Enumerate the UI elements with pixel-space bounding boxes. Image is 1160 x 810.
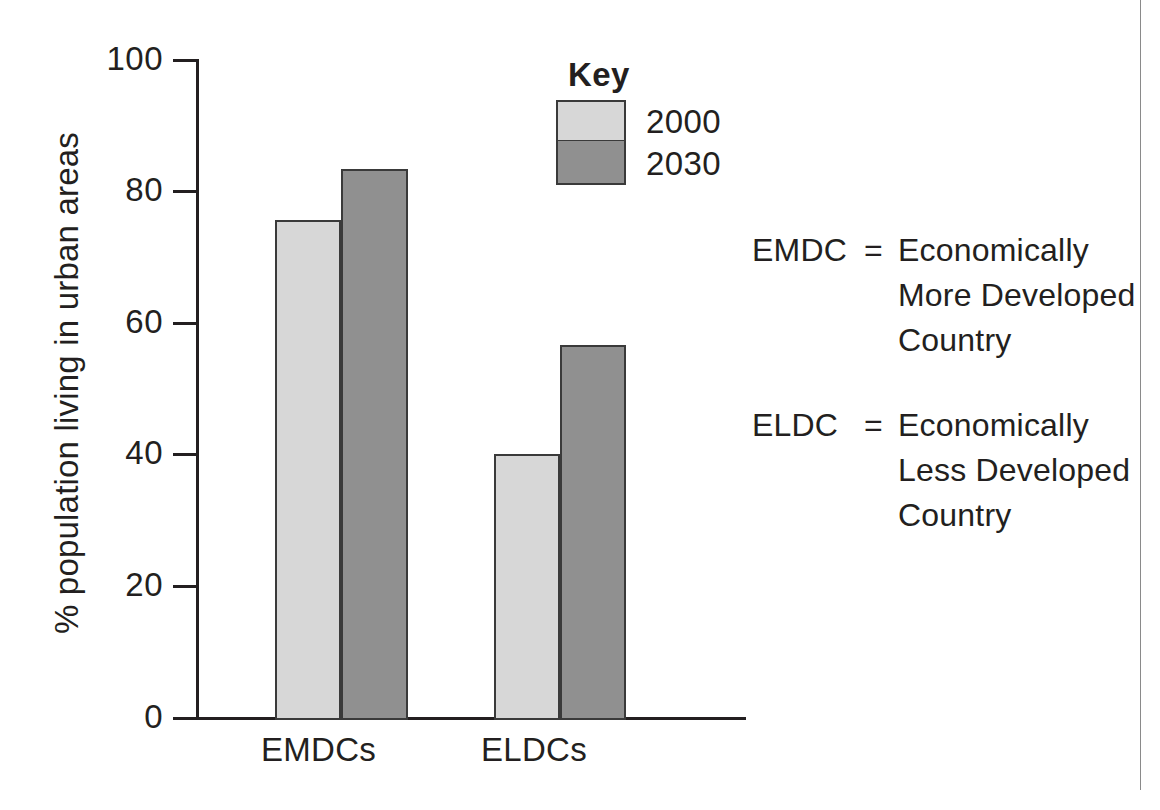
y-tick-label-40: 40 bbox=[73, 436, 163, 469]
y-tick-20 bbox=[173, 585, 196, 588]
y-axis-title: % population living in urban areas bbox=[49, 73, 85, 693]
bar-eldcs-2030 bbox=[560, 345, 626, 720]
definition-emdc-text1: Economically bbox=[898, 228, 1142, 273]
definition-eldc-equals: = bbox=[864, 403, 898, 448]
legend-entry-2030: 2030 bbox=[528, 142, 788, 184]
legend-entries: 2000 2030 bbox=[528, 100, 788, 184]
definition-emdc-line1: EMDC = Economically bbox=[752, 228, 1142, 273]
legend-entry-2000: 2000 bbox=[528, 100, 788, 142]
x-axis-label-eldcs: ELDCs bbox=[481, 730, 575, 770]
legend-swatch-2000 bbox=[556, 100, 626, 142]
x-axis-label-emdcs: EMDCs bbox=[261, 730, 355, 770]
y-tick-80 bbox=[173, 190, 196, 193]
y-axis-line bbox=[196, 59, 199, 720]
y-tick-label-0: 0 bbox=[73, 700, 163, 733]
y-tick-100 bbox=[173, 59, 196, 62]
definition-emdc: EMDC = Economically More Developed Count… bbox=[752, 228, 1142, 363]
y-tick-label-100-wrap: 100 bbox=[55, 42, 163, 75]
definitions-block: EMDC = Economically More Developed Count… bbox=[752, 228, 1142, 578]
definition-emdc-line3: Country bbox=[898, 318, 1142, 363]
y-tick-label-0-wrap: 0 bbox=[55, 700, 163, 733]
bar-chart-figure: 100 80 60 40 20 0 EMDCs ELDCs bbox=[0, 0, 1160, 810]
legend-label-2030: 2030 bbox=[646, 147, 721, 180]
bar-eldcs-2000 bbox=[494, 454, 560, 720]
definition-eldc-abbr: ELDC bbox=[752, 403, 864, 448]
y-tick-label-60: 60 bbox=[73, 305, 163, 338]
y-tick-label-80: 80 bbox=[73, 173, 163, 206]
bar-emdcs-2030 bbox=[341, 169, 408, 720]
y-tick-label-100: 100 bbox=[73, 42, 163, 75]
definition-eldc-line2: Less Developed bbox=[898, 448, 1142, 493]
legend-label-2000: 2000 bbox=[646, 105, 721, 138]
definition-emdc-equals: = bbox=[864, 228, 898, 273]
y-tick-60 bbox=[173, 322, 196, 325]
legend: Key 2000 2030 bbox=[528, 56, 788, 184]
definition-eldc-line3: Country bbox=[898, 493, 1142, 538]
y-tick-40 bbox=[173, 453, 196, 456]
y-tick-label-20: 20 bbox=[73, 568, 163, 601]
legend-title: Key bbox=[568, 56, 788, 94]
legend-swatch-2030 bbox=[556, 141, 626, 185]
definition-eldc-line1: ELDC = Economically bbox=[752, 403, 1142, 448]
y-tick-0 bbox=[173, 717, 196, 720]
x-axis-line bbox=[173, 717, 746, 720]
bar-emdcs-2000 bbox=[275, 220, 341, 720]
definition-eldc: ELDC = Economically Less Developed Count… bbox=[752, 403, 1142, 538]
definition-emdc-line2: More Developed bbox=[898, 273, 1142, 318]
definition-eldc-text1: Economically bbox=[898, 403, 1142, 448]
definition-emdc-abbr: EMDC bbox=[752, 228, 864, 273]
